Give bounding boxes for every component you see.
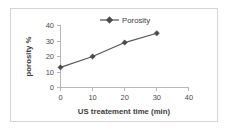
data-point-marker — [154, 31, 159, 36]
x-tick-label-40: 40 — [185, 93, 193, 102]
chart-frame: Porosity 40 30 20 10 0 porosity % — [10, 8, 218, 122]
y-axis: 40 30 20 10 0 porosity % — [24, 21, 61, 92]
y-tick-label-0: 0 — [50, 83, 54, 92]
legend-label-porosity: Porosity — [122, 16, 150, 25]
data-point-marker — [58, 65, 63, 70]
y-tick-label-10: 10 — [46, 68, 54, 77]
x-tick-label-20: 20 — [121, 93, 129, 102]
chart-legend: Porosity — [100, 16, 150, 25]
y-tick-label-30: 30 — [46, 37, 54, 46]
series-line-porosity — [61, 33, 157, 67]
data-point-marker — [122, 40, 127, 45]
x-axis: 0 10 20 30 40 US treatement time (min) — [58, 88, 193, 117]
y-tick-label-20: 20 — [46, 52, 54, 61]
data-point-marker — [90, 54, 95, 59]
x-axis-title: US treatement time (min) — [78, 107, 171, 116]
x-tick-label-30: 30 — [153, 93, 161, 102]
x-tick-label-0: 0 — [58, 93, 62, 102]
y-tick-label-40: 40 — [46, 21, 54, 30]
x-tick-label-10: 10 — [88, 93, 96, 102]
chart-screenshot: Porosity 40 30 20 10 0 porosity % — [0, 0, 229, 133]
y-axis-title: porosity % — [24, 37, 33, 77]
series-porosity — [58, 31, 160, 71]
legend-marker-diamond — [106, 17, 113, 24]
line-chart-plot: Porosity 40 30 20 10 0 porosity % — [11, 9, 217, 121]
